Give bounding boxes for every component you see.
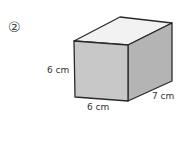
rectangular-prism	[74, 17, 172, 101]
diagram-canvas: ② 6 cm 6 cm 7 cm	[0, 0, 189, 144]
height-label: 6 cm	[47, 65, 69, 75]
depth-label: 7 cm	[152, 91, 174, 101]
prism-front-face	[74, 41, 128, 101]
problem-number: ②	[8, 19, 21, 35]
width-label: 6 cm	[87, 102, 109, 112]
